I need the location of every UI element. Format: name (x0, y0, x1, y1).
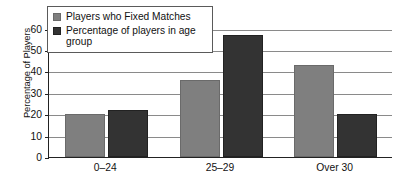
y-axis-tick-label: 20 (20, 110, 42, 120)
x-axis-tick-label: 25–29 (163, 162, 278, 174)
y-axis-tick-label: 0 (20, 153, 42, 163)
y-axis-tick-label: 30 (20, 89, 42, 99)
y-axis-tick-labels: 0102030405060 (18, 0, 42, 187)
y-axis-tick-label: 10 (20, 132, 42, 142)
y-axis-tick (45, 158, 49, 159)
y-axis-tick-label: 60 (20, 25, 42, 35)
x-axis-tick-labels: 0–2425–29Over 30 (48, 162, 392, 182)
bar (337, 114, 377, 157)
x-axis-tick-label: 0–24 (48, 162, 163, 174)
bar (223, 35, 263, 157)
legend-swatch-icon (53, 27, 61, 35)
x-axis-tick-label: Over 30 (277, 162, 392, 174)
bar (65, 114, 105, 157)
chart-legend: Players who Fixed MatchesPercentage of p… (47, 6, 213, 53)
bar (108, 110, 148, 157)
legend-swatch-icon (53, 13, 61, 21)
legend-label: Players who Fixed Matches (66, 11, 191, 23)
bar (180, 80, 220, 157)
legend-label: Percentage of players in age group (66, 25, 207, 48)
bar (294, 65, 334, 157)
legend-item: Percentage of players in age group (53, 25, 207, 48)
y-axis-tick-label: 50 (20, 46, 42, 56)
y-axis-tick-label: 40 (20, 67, 42, 77)
legend-item: Players who Fixed Matches (53, 11, 207, 23)
bar-chart: Percentage of Players 0102030405060 0–24… (0, 0, 413, 187)
